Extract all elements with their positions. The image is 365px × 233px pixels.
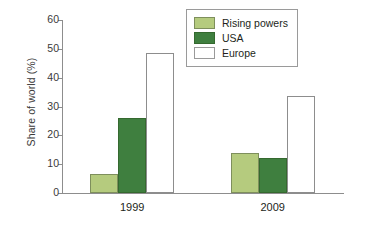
legend-swatch-europe: [194, 47, 215, 59]
y-tick-label: 50: [47, 42, 59, 54]
bar: [90, 174, 118, 193]
legend-label: Europe: [222, 47, 256, 59]
y-axis-label: Share of world (%): [25, 22, 37, 182]
legend-item: Rising powers: [194, 16, 288, 30]
y-tick-label: 40: [47, 71, 59, 83]
x-category-label: 1999: [80, 201, 184, 213]
bar: [118, 118, 146, 193]
bar-chart: Share of world (%) 0102030405060 1999200…: [0, 0, 365, 233]
chart-legend: Rising powers USA Europe: [186, 9, 298, 67]
x-category-label: 2009: [221, 201, 325, 213]
y-tick-label: 0: [53, 186, 59, 198]
bar: [259, 158, 287, 193]
y-tick-label: 20: [47, 128, 59, 140]
legend-swatch-usa: [194, 32, 215, 44]
x-axis-line: [62, 193, 344, 194]
legend-label: USA: [222, 32, 244, 44]
y-tick-label: 10: [47, 157, 59, 169]
bar: [287, 96, 315, 193]
bar: [231, 153, 259, 193]
legend-item: Europe: [194, 46, 288, 60]
y-tick-label: 30: [47, 100, 59, 112]
y-tick-label: 60: [47, 13, 59, 25]
legend-swatch-rising-powers: [194, 17, 215, 29]
legend-item: USA: [194, 31, 288, 45]
legend-label: Rising powers: [222, 17, 288, 29]
bar: [146, 53, 174, 193]
